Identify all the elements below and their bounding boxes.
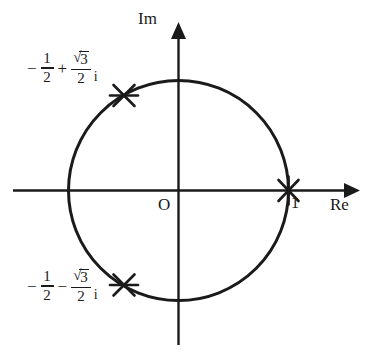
root-label-lower: − 1 2 − √ 3 2 i — [24, 268, 98, 304]
minus-sign-real-lower: − — [24, 278, 40, 295]
real-axis — [13, 183, 360, 198]
imaginary-unit-lower: i — [92, 288, 98, 304]
sqrt-expression-upper: √ 3 — [73, 50, 89, 68]
fraction-one-half-upper: 1 2 — [41, 51, 54, 84]
imaginary-unit-upper: i — [92, 70, 98, 86]
fraction-denominator: 2 — [41, 287, 53, 303]
root-label-upper: − 1 2 + √ 3 2 i — [24, 50, 98, 86]
fraction-denominator: 2 — [41, 69, 53, 85]
imaginary-axis-arrowhead — [171, 22, 186, 39]
origin-label: O — [158, 196, 170, 213]
real-axis-label: Re — [330, 196, 349, 213]
fraction-denominator: 2 — [75, 70, 87, 86]
plus-sign-upper: + — [55, 60, 71, 77]
fraction-numerator: 1 — [41, 269, 53, 285]
sqrt-expression-lower: √ 3 — [73, 268, 89, 286]
imaginary-axis — [171, 22, 186, 345]
fraction-denominator: 2 — [75, 288, 87, 304]
minus-sign-real-upper: − — [24, 60, 40, 77]
fraction-numerator: 1 — [41, 51, 53, 67]
tick-label-one: 1 — [291, 195, 299, 211]
fraction-numerator: √ 3 — [71, 268, 91, 287]
minus-sign-lower: − — [55, 278, 71, 295]
fraction-sqrt3-over-2-upper: √ 3 2 — [71, 50, 91, 86]
imaginary-axis-label: Im — [138, 10, 157, 27]
fraction-numerator: √ 3 — [71, 50, 91, 69]
sqrt-icon: √ — [73, 50, 81, 65]
sqrt-icon: √ — [73, 268, 81, 283]
complex-plane-figure: Im Re O 1 − 1 2 + √ 3 2 i − 1 — [0, 0, 377, 359]
fraction-one-half-lower: 1 2 — [41, 269, 54, 302]
fraction-sqrt3-over-2-lower: √ 3 2 — [71, 268, 91, 304]
